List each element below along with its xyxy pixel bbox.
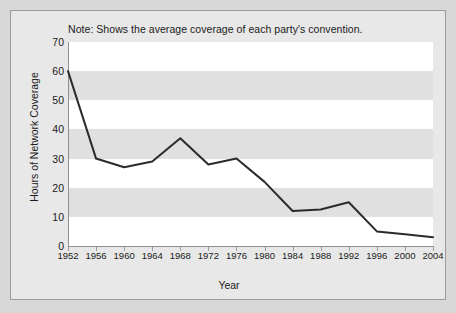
y-axis-ticks: 010203040506070 xyxy=(19,42,64,246)
y-tick-label: 50 xyxy=(24,94,64,106)
chart-note: Note: Shows the average coverage of each… xyxy=(68,23,363,35)
x-tick-label: 2000 xyxy=(394,250,415,261)
x-tick-label: 2004 xyxy=(422,250,443,261)
x-tick-label: 1968 xyxy=(170,250,191,261)
x-axis-ticks: 1952195619601964196819721976198019841988… xyxy=(68,247,434,269)
x-axis-label: Year xyxy=(11,279,447,291)
y-tick-label: 30 xyxy=(24,153,64,165)
y-tick-label: 40 xyxy=(24,123,64,135)
x-tick-label: 1956 xyxy=(85,250,106,261)
y-tick-label: 60 xyxy=(24,65,64,77)
line-path xyxy=(68,71,433,237)
x-tick-label: 1984 xyxy=(282,250,303,261)
x-tick-label: 1976 xyxy=(226,250,247,261)
x-tick-label: 1992 xyxy=(338,250,359,261)
x-tick-label: 1996 xyxy=(366,250,387,261)
y-tick-label: 20 xyxy=(24,182,64,194)
x-tick-label: 1952 xyxy=(57,250,78,261)
x-tick-label: 1964 xyxy=(142,250,163,261)
data-series-line xyxy=(68,42,433,246)
x-tick-label: 1972 xyxy=(198,250,219,261)
x-tick-label: 1988 xyxy=(310,250,331,261)
x-tick-label: 1980 xyxy=(254,250,275,261)
x-tick-label: 1960 xyxy=(114,250,135,261)
y-tick-label: 10 xyxy=(24,211,64,223)
chart-figure: Note: Shows the average coverage of each… xyxy=(10,10,446,300)
y-tick-label: 70 xyxy=(24,36,64,48)
